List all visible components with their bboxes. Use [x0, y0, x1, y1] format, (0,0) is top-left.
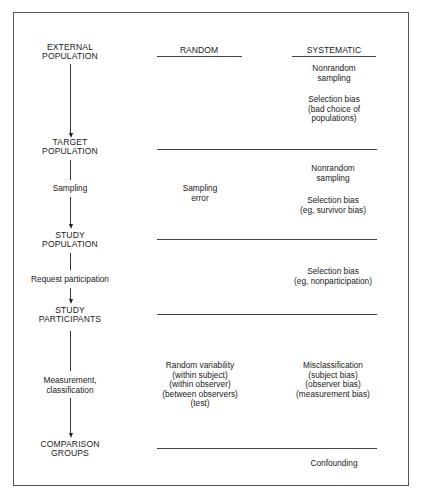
text-line: sampling	[311, 174, 354, 184]
systematic-nonrandom-sampling-2: Nonrandom sampling	[311, 164, 354, 183]
arrow-down-icon	[69, 433, 73, 438]
transition-measurement-classification: Measurement, classification	[43, 376, 96, 395]
stage-target-population: TARGET POPULATION	[42, 138, 98, 157]
random-header-underline	[157, 56, 242, 57]
column-header-random: RANDOM	[180, 45, 218, 55]
transition-sampling: Sampling	[53, 184, 88, 194]
text-line: (eg, survivor bias)	[300, 206, 366, 216]
transition-request-participation: Request participation	[31, 275, 109, 285]
text-line: populations)	[308, 114, 360, 124]
flow-connector	[70, 253, 71, 270]
text-line: (eg, nonparticipation)	[294, 277, 372, 287]
flow-connector	[70, 398, 71, 433]
stage-label-line: POPULATION	[42, 147, 98, 156]
column-header-systematic: SYSTEMATIC	[307, 45, 361, 55]
arrow-down-icon	[69, 224, 73, 229]
flow-connector	[70, 197, 71, 225]
row-divider	[157, 448, 377, 449]
row-divider	[157, 149, 377, 150]
systematic-selection-bias-1: Selection bias (bad choice of population…	[308, 95, 360, 124]
stage-label-line: POPULATION	[42, 240, 98, 249]
stage-label-line: GROUPS	[40, 449, 99, 458]
text-line: (test)	[162, 399, 238, 409]
stage-comparison-groups: COMPARISON GROUPS	[40, 440, 99, 459]
stage-label-line: POPULATION	[42, 52, 98, 61]
text-line: (measurement bias)	[296, 390, 370, 400]
stage-label-line: PARTICIPANTS	[39, 315, 101, 324]
text-line: sampling	[312, 74, 355, 84]
systematic-selection-bias-2: Selection bias (eg, survivor bias)	[300, 196, 366, 215]
stage-external-population: EXTERNAL POPULATION	[42, 43, 98, 62]
row-divider	[157, 314, 377, 315]
flow-connector	[70, 288, 71, 299]
text-line: classification	[43, 386, 96, 396]
stage-study-population: STUDY POPULATION	[42, 231, 98, 250]
flow-connector	[70, 64, 71, 133]
random-variability: Random variability (within subject) (wit…	[162, 361, 238, 409]
systematic-header-underline	[292, 56, 376, 57]
systematic-misclassification: Misclassification (subject bias) (observ…	[296, 361, 370, 399]
systematic-selection-bias-3: Selection bias (eg, nonparticipation)	[294, 267, 372, 286]
text-line: error	[183, 194, 218, 204]
random-sampling-error: Sampling error	[183, 184, 218, 203]
row-divider	[157, 239, 377, 240]
flow-connector	[70, 331, 71, 371]
flow-connector	[70, 160, 71, 180]
systematic-confounding: Confounding	[310, 459, 357, 469]
arrow-down-icon	[69, 299, 73, 304]
systematic-nonrandom-sampling-1: Nonrandom sampling	[312, 64, 355, 83]
stage-study-participants: STUDY PARTICIPANTS	[39, 306, 101, 325]
